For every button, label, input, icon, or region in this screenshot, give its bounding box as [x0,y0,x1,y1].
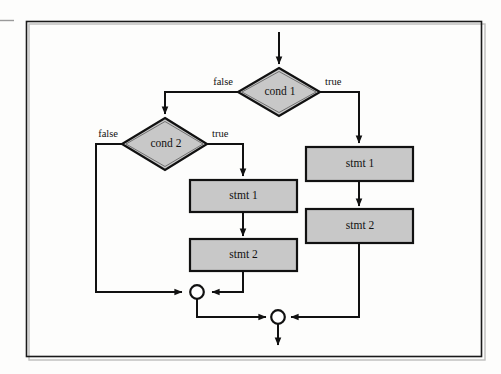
node-merge-outer[interactable] [271,310,285,324]
figure-canvas: cond 1 cond 2 stmt 1 stmt 2 stmt 1 stmt … [0,0,501,374]
node-right-stmt2-label: stmt 2 [346,219,375,231]
edge-cond2-true-to-left-stmt1 [207,144,243,176]
node-merge-inner[interactable] [190,285,204,299]
edge-cond1-true-to-right-stmt1 [319,92,359,143]
node-right-stmt2[interactable]: stmt 2 [306,209,413,243]
flowchart-diagram: cond 1 cond 2 stmt 1 stmt 2 stmt 1 stmt … [0,0,501,374]
node-left-stmt1[interactable]: stmt 1 [190,180,297,212]
edge-cond1-false-to-cond2 [165,92,240,114]
edge-left-stmt2-to-merge-inner [212,271,243,292]
edge-merge-inner-to-merge-outer [197,299,266,317]
node-right-stmt1-label: stmt 1 [346,157,375,169]
node-cond2-label: cond 2 [151,137,182,149]
node-cond1-label: cond 1 [265,85,296,97]
node-right-stmt1[interactable]: stmt 1 [306,147,413,181]
edge-label-cond2-true: true [212,128,229,139]
node-cond2[interactable]: cond 2 [122,118,207,170]
node-cond1[interactable]: cond 1 [238,68,320,116]
node-left-stmt1-label: stmt 1 [229,189,258,201]
edge-label-cond1-false: false [213,76,233,87]
edge-label-cond2-false: false [98,128,118,139]
edge-right-stmt2-to-merge-outer [291,243,359,317]
edge-label-cond1-true: true [325,76,342,87]
node-left-stmt2-label: stmt 2 [229,248,258,260]
node-left-stmt2[interactable]: stmt 2 [190,239,297,271]
